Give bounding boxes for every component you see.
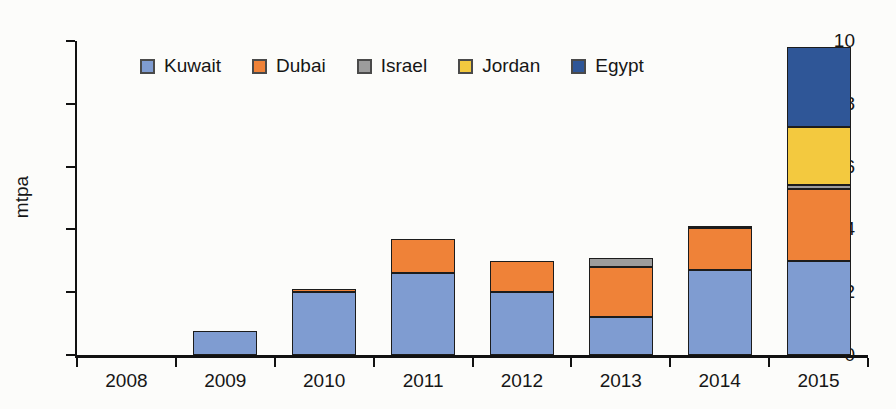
x-axis-category-label: 2015 xyxy=(797,370,839,392)
bar-segment-2015-egypt xyxy=(787,47,851,127)
x-axis-tick xyxy=(472,358,474,367)
x-axis-category-label: 2009 xyxy=(204,370,246,392)
legend-item-egypt: Egypt xyxy=(571,55,644,77)
legend-swatch-kuwait xyxy=(140,59,155,74)
x-axis-tick xyxy=(570,358,572,367)
y-axis-label: mtpa xyxy=(11,176,33,218)
bar-segment-2010-kuwait xyxy=(292,292,356,355)
legend-label: Dubai xyxy=(276,55,326,77)
x-axis-tick xyxy=(867,358,869,367)
bar-segment-2015-jordan xyxy=(787,127,851,185)
legend-swatch-jordan xyxy=(458,59,473,74)
x-axis-category-label: 2011 xyxy=(403,370,444,392)
y-axis-tick xyxy=(66,228,75,230)
legend-label: Jordan xyxy=(482,55,540,77)
legend-item-jordan: Jordan xyxy=(458,55,540,77)
x-axis-category-label: 2014 xyxy=(699,370,741,392)
x-axis-tick xyxy=(373,358,375,367)
bar-segment-2014-israel xyxy=(688,226,752,228)
bar-segment-2015-kuwait xyxy=(787,261,851,355)
x-axis-category-label: 2010 xyxy=(303,370,345,392)
legend-item-dubai: Dubai xyxy=(252,55,326,77)
y-axis-tick xyxy=(66,354,75,356)
legend-label: Kuwait xyxy=(164,55,221,77)
lng-imports-stacked-bar-chart: mtpa KuwaitDubaiIsraelJordanEgypt 024681… xyxy=(0,0,896,409)
bar-segment-2011-dubai xyxy=(391,239,455,274)
y-axis-tick xyxy=(66,103,75,105)
bar-segment-2013-dubai xyxy=(589,267,653,317)
bar-segment-2015-dubai xyxy=(787,189,851,261)
legend-swatch-egypt xyxy=(571,59,586,74)
plot-area: 024681020082009201020112012201320142015 xyxy=(75,41,868,358)
x-axis-tick xyxy=(669,358,671,367)
x-axis-category-label: 2008 xyxy=(105,370,147,392)
y-axis-tick xyxy=(66,291,75,293)
chart-legend: KuwaitDubaiIsraelJordanEgypt xyxy=(140,55,644,77)
bar-segment-2012-dubai xyxy=(490,261,554,292)
bar-segment-2012-kuwait xyxy=(490,292,554,355)
legend-swatch-israel xyxy=(357,59,372,74)
bar-segment-2009-kuwait xyxy=(193,331,257,355)
x-axis-category-label: 2012 xyxy=(501,370,543,392)
bar-segment-2013-kuwait xyxy=(589,317,653,355)
x-axis-tick xyxy=(175,358,177,367)
legend-item-kuwait: Kuwait xyxy=(140,55,221,77)
x-axis-category-label: 2013 xyxy=(600,370,642,392)
legend-label: Israel xyxy=(381,55,427,77)
bar-segment-2010-dubai xyxy=(292,289,356,292)
bar-segment-2013-israel xyxy=(589,258,653,267)
bar-segment-2014-dubai xyxy=(688,228,752,270)
legend-item-israel: Israel xyxy=(357,55,427,77)
y-axis-tick xyxy=(66,40,75,42)
bar-segment-2015-israel xyxy=(787,185,851,188)
x-axis-tick xyxy=(76,358,78,367)
legend-label: Egypt xyxy=(595,55,644,77)
legend-swatch-dubai xyxy=(252,59,267,74)
bar-segment-2011-kuwait xyxy=(391,273,455,355)
x-axis-tick xyxy=(274,358,276,367)
x-axis-tick xyxy=(768,358,770,367)
bar-segment-2014-kuwait xyxy=(688,270,752,355)
y-axis-tick xyxy=(66,166,75,168)
